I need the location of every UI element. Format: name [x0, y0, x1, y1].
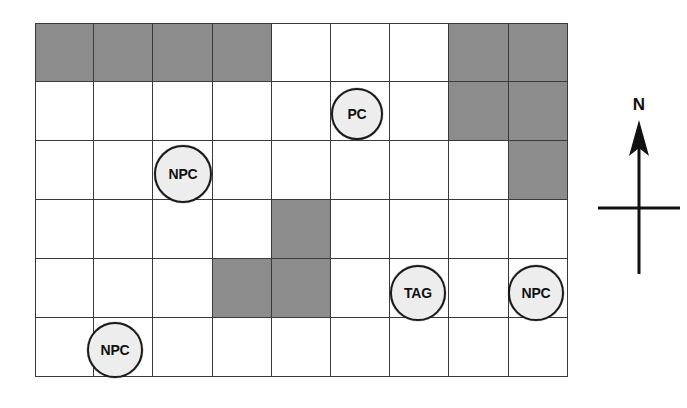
- grid-cell-r5-c2[interactable]: [94, 259, 153, 318]
- token-label: PC: [347, 107, 366, 121]
- token-npc-east[interactable]: NPC: [508, 265, 564, 321]
- grid-cell-r6-c5[interactable]: [272, 318, 331, 377]
- grid-cell-r6-c4[interactable]: [213, 318, 272, 377]
- grid-cell-r6-c9[interactable]: [509, 318, 568, 377]
- token-pc[interactable]: PC: [331, 88, 383, 140]
- grid-cell-r1-c5[interactable]: [272, 23, 331, 82]
- grid-cell-r6-c6[interactable]: [331, 318, 390, 377]
- grid-cell-r5-c4[interactable]: [213, 259, 272, 318]
- grid-cell-r6-c7[interactable]: [390, 318, 449, 377]
- grid-cell-r1-c3[interactable]: [153, 23, 212, 82]
- token-label: NPC: [101, 343, 130, 357]
- compass-rose: N: [596, 96, 682, 274]
- grid-cell-r4-c2[interactable]: [94, 200, 153, 259]
- grid-cell-r4-c1[interactable]: [35, 200, 94, 259]
- grid-cell-r2-c3[interactable]: [153, 82, 212, 141]
- grid-cell-r4-c6[interactable]: [331, 200, 390, 259]
- grid-cell-r2-c2[interactable]: [94, 82, 153, 141]
- token-label: NPC: [169, 167, 198, 181]
- grid-cell-r1-c6[interactable]: [331, 23, 390, 82]
- grid-cell-r5-c3[interactable]: [153, 259, 212, 318]
- grid-cell-r1-c2[interactable]: [94, 23, 153, 82]
- grid-cell-r1-c4[interactable]: [213, 23, 272, 82]
- grid-cell-r3-c7[interactable]: [390, 141, 449, 200]
- grid-cell-r3-c2[interactable]: [94, 141, 153, 200]
- grid-cell-r3-c8[interactable]: [449, 141, 508, 200]
- grid-cell-r1-c1[interactable]: [35, 23, 94, 82]
- grid-cell-r5-c6[interactable]: [331, 259, 390, 318]
- grid-cell-r3-c1[interactable]: [35, 141, 94, 200]
- grid-cell-r4-c5[interactable]: [272, 200, 331, 259]
- grid-cell-r6-c1[interactable]: [35, 318, 94, 377]
- grid-cell-r4-c4[interactable]: [213, 200, 272, 259]
- compass-north-label: N: [596, 96, 682, 113]
- grid-cell-r4-c3[interactable]: [153, 200, 212, 259]
- grid-cell-r2-c8[interactable]: [449, 82, 508, 141]
- grid-cell-r2-c1[interactable]: [35, 82, 94, 141]
- grid-cell-r1-c7[interactable]: [390, 23, 449, 82]
- grid-cell-r4-c8[interactable]: [449, 200, 508, 259]
- grid-cell-r3-c9[interactable]: [509, 141, 568, 200]
- grid-cell-r4-c7[interactable]: [390, 200, 449, 259]
- grid-cell-r6-c3[interactable]: [153, 318, 212, 377]
- grid-cell-r3-c5[interactable]: [272, 141, 331, 200]
- grid-cell-r2-c7[interactable]: [390, 82, 449, 141]
- grid-cell-r5-c8[interactable]: [449, 259, 508, 318]
- grid-cell-r1-c8[interactable]: [449, 23, 508, 82]
- grid-cell-r6-c8[interactable]: [449, 318, 508, 377]
- grid-cell-r5-c5[interactable]: [272, 259, 331, 318]
- grid-cell-r2-c9[interactable]: [509, 82, 568, 141]
- token-npc-west[interactable]: NPC: [154, 145, 212, 203]
- token-tag[interactable]: TAG: [390, 265, 446, 321]
- grid-cell-r5-c1[interactable]: [35, 259, 94, 318]
- token-label: TAG: [404, 286, 432, 300]
- grid-cell-r4-c9[interactable]: [509, 200, 568, 259]
- grid-cell-r2-c4[interactable]: [213, 82, 272, 141]
- token-npc-southwest[interactable]: NPC: [87, 322, 143, 378]
- compass-needle-icon: [596, 118, 682, 274]
- grid-cell-r3-c4[interactable]: [213, 141, 272, 200]
- token-label: NPC: [522, 286, 551, 300]
- grid-cell-r2-c5[interactable]: [272, 82, 331, 141]
- grid-cell-r1-c9[interactable]: [509, 23, 568, 82]
- tactical-grid-map: PCNPCTAGNPCNPC N: [0, 0, 687, 408]
- grid-cell-r3-c6[interactable]: [331, 141, 390, 200]
